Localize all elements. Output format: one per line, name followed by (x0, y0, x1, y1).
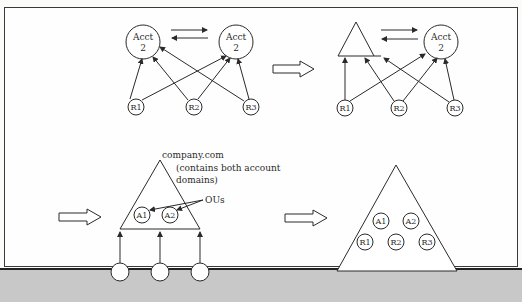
r1-label: R1 (130, 103, 141, 112)
trust-r2-tree (365, 58, 394, 101)
account-label-line2: 2 (438, 43, 444, 53)
r2-label: R2 (188, 103, 199, 112)
stage4 (337, 165, 457, 271)
r1-label: R1 (339, 104, 350, 113)
account-1-label-line2: 2 (140, 43, 146, 53)
account-2-label-line2: 2 (233, 43, 239, 53)
r3-label: R3 (421, 238, 432, 247)
trust-r3-a2 (238, 59, 249, 99)
r2-label: R2 (393, 104, 404, 113)
trust-r1-a1 (130, 59, 142, 99)
transition-arrow-2 (59, 209, 101, 225)
a2-label: A2 (164, 211, 176, 220)
a1-label: A1 (375, 217, 387, 226)
trust-r3-acct (445, 59, 454, 100)
account-label-line1: Acct (430, 32, 452, 42)
consolidated-domain-triangle (337, 165, 457, 271)
ou-label: OUs (205, 195, 225, 205)
account-domain-1 (126, 25, 160, 59)
domain-label: company.com (162, 150, 224, 160)
trust-r1-acct (350, 54, 425, 101)
triangle-edge (356, 22, 374, 56)
transition-arrow-3 (285, 210, 327, 226)
r3-label: R3 (449, 104, 460, 113)
r3-label: R3 (245, 103, 256, 112)
account-domain (424, 25, 458, 59)
a1-label: A1 (136, 211, 148, 220)
child-domain-1 (111, 263, 129, 281)
trust-r2-a2 (198, 58, 230, 99)
account-2-label-line1: Acct (225, 32, 247, 42)
r1-label: R1 (359, 238, 370, 247)
account-domain-2 (219, 25, 253, 59)
child-domain-3 (191, 263, 209, 281)
transition-arrow-1 (273, 61, 314, 77)
child-domain-2 (151, 263, 169, 281)
domain-note-line2: domains) (176, 175, 218, 185)
account-1-label-line1: Acct (132, 32, 154, 42)
trust-r3-tree (384, 58, 449, 102)
domain-note-line1: (contains both account (176, 163, 281, 173)
r2-label: R2 (390, 238, 401, 247)
domain-tree-triangle (338, 22, 381, 56)
a2-label: A2 (405, 217, 417, 226)
